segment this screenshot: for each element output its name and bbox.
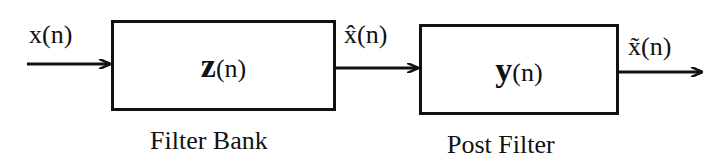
input-signal-label: x(n) [29,22,72,48]
output-signal-label: x̃(n) [628,34,671,60]
post-filter-symbol: y [495,51,512,88]
filter-bank-caption: Filter Bank [150,128,268,154]
filter-bank-symbol: z [201,47,216,84]
filter-bank-block: z(n) [111,20,336,111]
filter-bank-arg: (n) [216,54,246,83]
post-filter-caption: Post Filter [447,132,555,158]
post-filter-block: y(n) [419,24,619,115]
post-filter-arg: (n) [512,58,542,87]
intermediate-signal-label: x̂(n) [344,22,387,48]
